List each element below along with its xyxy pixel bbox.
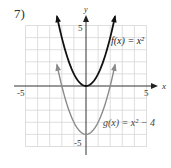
x-axis-arrow-icon <box>151 83 158 89</box>
g-arrow-left-icon <box>55 63 60 71</box>
y-axis-arrow-icon <box>83 15 89 22</box>
g-arrow-right-icon <box>111 63 116 71</box>
f-label: f(x) = x² <box>111 35 145 47</box>
x-tick-neg5: -5 <box>17 88 25 98</box>
x-axis-label: x <box>161 81 166 91</box>
x-tick-5: 5 <box>144 88 149 98</box>
x-axis: x -5 5 <box>14 81 166 98</box>
y-tick-5: 5 <box>78 23 83 33</box>
function-graph: x -5 5 y 5 -5 f(x) = x² g(x) = x² − 4 <box>0 0 171 168</box>
y-axis-label: y <box>83 5 88 14</box>
f-arrow-left-icon <box>55 15 60 23</box>
f-arrow-right-icon <box>111 15 116 23</box>
g-label: g(x) = x² − 4 <box>103 117 155 129</box>
y-tick-neg5: -5 <box>74 138 82 148</box>
